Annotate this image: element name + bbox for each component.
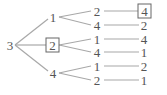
node-l2-b2: 4 (94, 45, 101, 60)
node-l1-a: 1 (50, 10, 57, 25)
node-l2-a2: 4 (94, 18, 101, 33)
node-root: 3 (7, 38, 14, 53)
node-l3-b2: 1 (141, 45, 148, 60)
node-l2-a1: 2 (94, 4, 101, 19)
edge-2-to-1 (59, 39, 91, 45)
tree-diagram: 3 1 2 4 2 4 1 4 1 2 4 2 4 1 2 1 (0, 0, 167, 95)
node-l3-a2: 2 (141, 18, 148, 33)
node-l2-c2: 2 (94, 73, 101, 88)
edge-root-to-4 (15, 45, 48, 71)
edge-4-to-2 (59, 73, 91, 80)
node-l1-b: 2 (49, 38, 56, 53)
edge-1-to-2 (59, 11, 91, 17)
node-l3-a1: 4 (141, 4, 148, 19)
edge-2-to-4 (59, 45, 91, 52)
edge-root-to-1 (15, 19, 48, 45)
node-l1-c: 4 (50, 66, 57, 81)
edge-4-to-1 (59, 66, 91, 73)
node-l3-c1: 2 (141, 59, 148, 74)
edge-1-to-4 (59, 17, 91, 25)
node-l3-c2: 1 (141, 73, 148, 88)
node-l2-c1: 1 (94, 59, 101, 74)
